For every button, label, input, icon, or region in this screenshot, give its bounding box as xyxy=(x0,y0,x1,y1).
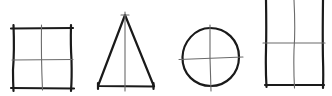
circle-guide-horizontal xyxy=(179,57,243,60)
shapes-sketch xyxy=(0,0,332,96)
tall-rectangle-shape xyxy=(263,0,325,88)
square-guide-horizontal xyxy=(12,60,73,61)
rect-outline-right xyxy=(323,0,324,88)
triangle-shape xyxy=(98,12,154,91)
square-outline-left xyxy=(13,25,14,91)
square-guide-vertical xyxy=(41,25,42,90)
circle-shape xyxy=(179,25,243,91)
rect-guide-vertical xyxy=(294,0,295,88)
square-outline-right xyxy=(71,25,72,91)
triangle-outline xyxy=(98,15,154,87)
square-shape xyxy=(11,25,74,91)
